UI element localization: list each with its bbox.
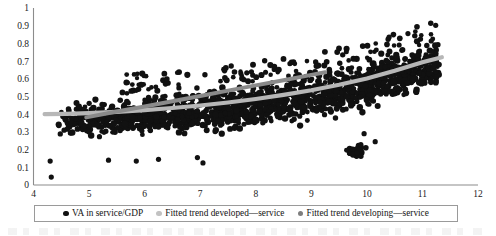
scatter-point bbox=[327, 89, 332, 94]
legend-marker-icon bbox=[156, 211, 162, 217]
scatter-point bbox=[384, 42, 390, 48]
scatter-point bbox=[245, 78, 251, 84]
scatter-point bbox=[363, 145, 369, 151]
x-tick-label: 9 bbox=[309, 189, 314, 199]
scatter-point bbox=[258, 72, 264, 78]
scatter-point bbox=[231, 75, 236, 80]
scatter-point bbox=[357, 66, 363, 72]
scatter-point bbox=[250, 88, 255, 93]
legend-label: VA in service/GDP bbox=[72, 209, 143, 218]
scatter-point bbox=[429, 38, 434, 43]
x-tick-label: 11 bbox=[418, 189, 427, 199]
scatter-point bbox=[310, 77, 315, 82]
scatter-point bbox=[115, 125, 120, 130]
scatter-point bbox=[229, 63, 234, 68]
legend-item-va-in-service: VA in service/GDP bbox=[63, 209, 143, 218]
scatter-point bbox=[305, 118, 310, 123]
scatter-point bbox=[431, 63, 436, 68]
scatter-point bbox=[394, 85, 400, 91]
scatter-point bbox=[360, 43, 366, 49]
scatter-point bbox=[409, 52, 415, 58]
scatter-point bbox=[202, 72, 207, 77]
scatter-point bbox=[99, 124, 104, 129]
scatter-point bbox=[117, 98, 123, 104]
scatter-point bbox=[417, 49, 422, 54]
scatter-point bbox=[237, 125, 243, 131]
legend-label: Fitted trend developing—service bbox=[307, 209, 429, 218]
scatter-point bbox=[250, 62, 256, 68]
y-axis-tick-labels: 00.10.20.30.40.50.60.70.80.91 bbox=[17, 3, 29, 190]
legend-item-fitted-developed: Fitted trend developed—service bbox=[156, 209, 284, 218]
scatter-point bbox=[314, 63, 320, 69]
scatter-point bbox=[424, 43, 429, 48]
scatter-point bbox=[433, 23, 438, 28]
scatter-point bbox=[334, 49, 340, 55]
x-tick-label: 8 bbox=[253, 189, 258, 199]
scatter-point bbox=[139, 128, 144, 133]
scatter-point bbox=[276, 67, 282, 73]
scatter-point bbox=[274, 85, 279, 90]
scatter-point bbox=[408, 59, 413, 64]
scatter-point bbox=[175, 117, 181, 123]
y-tick-label: 0.2 bbox=[17, 145, 29, 155]
scatter-point bbox=[253, 74, 259, 80]
scatter-point bbox=[82, 123, 87, 128]
scatter-point bbox=[148, 118, 154, 124]
scatter-point bbox=[219, 131, 225, 137]
scatter-point bbox=[163, 94, 168, 99]
scatter-point bbox=[323, 80, 328, 85]
scatter-point bbox=[324, 107, 329, 112]
y-tick-label: 1 bbox=[24, 3, 29, 13]
scatter-point bbox=[137, 115, 142, 120]
scatter-point bbox=[173, 111, 178, 116]
scatter-point bbox=[306, 97, 311, 102]
scatter-point bbox=[262, 58, 267, 63]
scatter-point bbox=[163, 81, 169, 87]
y-tick-label: 0 bbox=[24, 180, 29, 190]
x-axis-tick-labels: 456789101112 bbox=[31, 189, 483, 199]
scatter-point bbox=[146, 123, 152, 129]
scatter-point bbox=[391, 32, 397, 38]
scatter-point bbox=[384, 84, 389, 89]
scatter-point bbox=[334, 71, 339, 76]
scatter-point bbox=[128, 88, 134, 94]
chart-legend: VA in service/GDP Fitted trend developed… bbox=[34, 205, 458, 222]
scatter-point bbox=[350, 56, 356, 62]
scatter-point bbox=[403, 90, 409, 96]
scatter-point bbox=[155, 123, 161, 129]
scatter-point bbox=[130, 82, 135, 87]
scatter-point bbox=[249, 69, 254, 74]
scatter-point bbox=[295, 82, 300, 87]
scatter-point bbox=[264, 112, 270, 118]
scatter-point bbox=[433, 79, 439, 85]
scatter-point bbox=[238, 71, 243, 76]
scatter-point bbox=[49, 174, 54, 179]
scatter-point bbox=[367, 87, 372, 92]
scatter-point bbox=[357, 104, 363, 110]
scatter-point bbox=[392, 43, 397, 48]
scatter-point bbox=[281, 56, 287, 62]
scatter-point bbox=[349, 70, 354, 75]
scatter-point bbox=[99, 102, 105, 108]
scatter-point bbox=[253, 117, 259, 123]
scatter-point bbox=[333, 115, 338, 120]
scatter-point bbox=[182, 131, 188, 137]
scatter-point bbox=[373, 139, 378, 144]
scatter-point bbox=[189, 121, 195, 127]
x-tick-label: 12 bbox=[473, 189, 483, 199]
scatter-point bbox=[362, 131, 367, 136]
legend-item-fitted-developing: Fitted trend developing—service bbox=[298, 209, 429, 218]
scatter-point bbox=[334, 105, 340, 111]
scatter-point bbox=[146, 95, 151, 100]
scatter-point bbox=[275, 113, 281, 119]
scatter-point bbox=[66, 106, 71, 111]
scatter-point bbox=[162, 115, 167, 120]
scatter-point bbox=[149, 85, 154, 90]
scatter-point bbox=[293, 111, 298, 116]
scatter-point bbox=[322, 112, 327, 117]
scatter-point bbox=[358, 142, 363, 147]
scatter-point bbox=[299, 99, 304, 104]
scatter-point bbox=[232, 69, 238, 75]
scatter-point bbox=[141, 82, 146, 87]
y-tick-label: 0.6 bbox=[17, 74, 29, 84]
